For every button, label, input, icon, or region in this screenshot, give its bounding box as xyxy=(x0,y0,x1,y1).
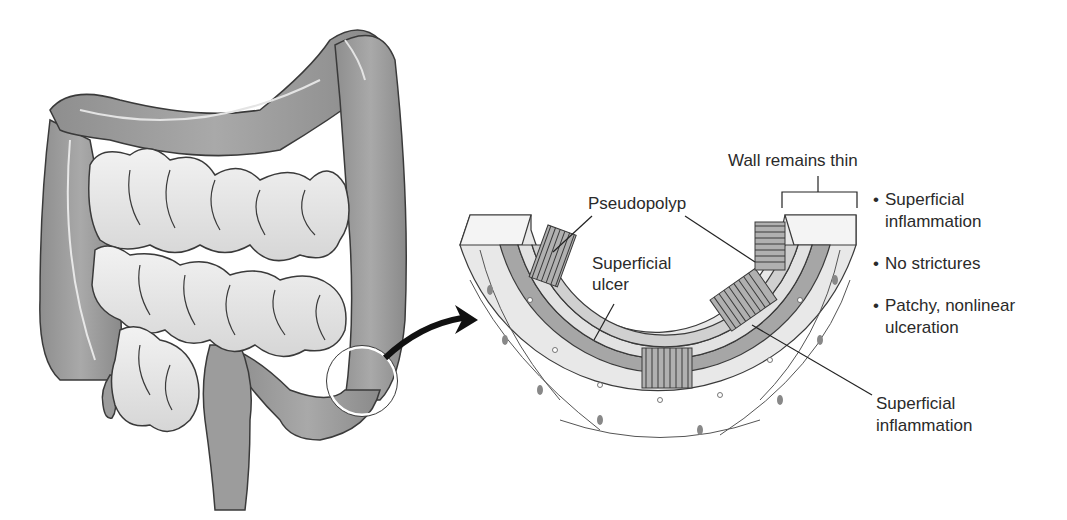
label-superficial-inflammation-line1: Superficial xyxy=(876,393,972,415)
label-pseudopolyp: Pseudopolyp xyxy=(588,193,686,214)
label-wall-remains-thin: Wall remains thin xyxy=(728,150,858,171)
bullet-item: No strictures xyxy=(873,253,1015,275)
label-superficial-inflammation-line2: inflammation xyxy=(876,415,972,437)
label-superficial-inflammation: Superficial inflammation xyxy=(876,393,972,437)
feature-bullet-list: Superficial inflammation No strictures P… xyxy=(873,189,1015,359)
bullet-item: Patchy, nonlinear ulceration xyxy=(873,295,1015,339)
label-superficial-ulcer-line1: Superficial xyxy=(592,253,671,274)
bullet-item: Superficial inflammation xyxy=(873,189,1015,233)
label-superficial-ulcer-line2: ulcer xyxy=(592,274,671,295)
label-superficial-ulcer: Superficial ulcer xyxy=(592,253,671,295)
